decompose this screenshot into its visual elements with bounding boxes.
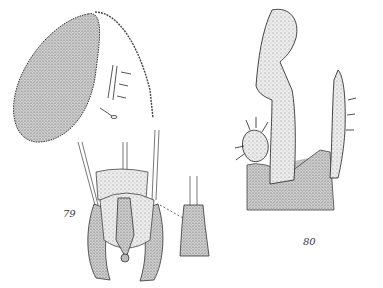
genitalia-detail-inset [180, 176, 209, 256]
genitalia-ventral-view [78, 130, 163, 281]
leader-line [160, 205, 183, 218]
setae-detail [100, 65, 131, 119]
illustration-canvas [0, 0, 383, 288]
figure-label-80: 80 [303, 236, 316, 247]
antenna-oval-segment [14, 12, 153, 142]
figure-label-79: 79 [63, 208, 76, 219]
figure-80-drawing [235, 9, 356, 210]
